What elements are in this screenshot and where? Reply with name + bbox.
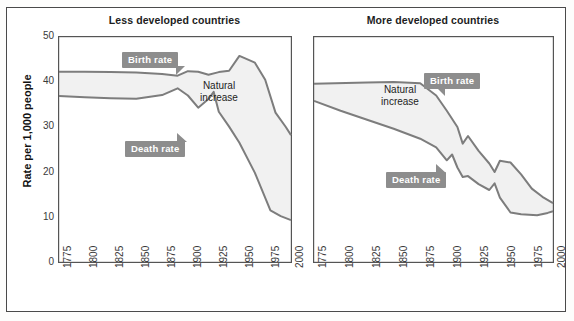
x-tick-right-1900: 1900 bbox=[452, 246, 463, 268]
natural-increase-area-left bbox=[59, 56, 291, 220]
x-tick-right-1800: 1800 bbox=[344, 246, 355, 268]
x-tick-left-1850: 1850 bbox=[140, 246, 151, 268]
callout-pointer-icon bbox=[176, 66, 185, 75]
annotation-line-1: Natural bbox=[186, 80, 252, 92]
x-tick-left-1775: 1775 bbox=[62, 246, 73, 268]
death-rate-callout-right: Death rate bbox=[386, 172, 446, 188]
panel-title-more-developed: More developed countries bbox=[313, 14, 553, 26]
x-tick-left-1875: 1875 bbox=[166, 246, 177, 268]
birth-rate-callout-label: Birth rate bbox=[128, 54, 172, 65]
annotation-line-2: increase bbox=[367, 96, 433, 108]
birth-rate-callout-left: Birth rate bbox=[122, 52, 178, 68]
x-tick-right-1925: 1925 bbox=[479, 246, 490, 268]
x-tick-left-1950: 1950 bbox=[244, 246, 255, 268]
x-tick-left-1800: 1800 bbox=[88, 246, 99, 268]
x-tick-left-1925: 1925 bbox=[218, 246, 229, 268]
natural-increase-annotation-right: Natural increase bbox=[367, 84, 433, 108]
natural-increase-annotation-left: Natural increase bbox=[186, 80, 252, 104]
demographic-transition-figure: Rate per 1,000 people Less developed cou… bbox=[0, 0, 574, 321]
callout-pointer-icon bbox=[177, 133, 187, 142]
x-tick-right-1775: 1775 bbox=[317, 246, 328, 268]
y-tick-20: 20 bbox=[28, 166, 54, 177]
death-rate-callout-left: Death rate bbox=[125, 141, 185, 157]
x-tick-right-1975: 1975 bbox=[533, 246, 544, 268]
death-rate-callout-label: Death rate bbox=[392, 174, 440, 185]
callout-pointer-icon bbox=[436, 164, 446, 173]
callout-pointer-icon bbox=[436, 87, 445, 96]
annotation-line-2: increase bbox=[186, 92, 252, 104]
x-tick-right-1875: 1875 bbox=[425, 246, 436, 268]
death-rate-callout-label: Death rate bbox=[131, 143, 179, 154]
y-axis-label: Rate per 1,000 people bbox=[21, 31, 33, 231]
y-tick-40: 40 bbox=[28, 75, 54, 86]
natural-increase-area-right bbox=[314, 82, 553, 215]
x-tick-left-1900: 1900 bbox=[192, 246, 203, 268]
x-tick-right-2000: 2000 bbox=[556, 246, 567, 268]
x-tick-right-1950: 1950 bbox=[506, 246, 517, 268]
y-tick-10: 10 bbox=[28, 211, 54, 222]
birth-rate-callout-label: Birth rate bbox=[430, 75, 474, 86]
plot-area-more-developed bbox=[313, 36, 554, 263]
x-tick-right-1850: 1850 bbox=[398, 246, 409, 268]
x-tick-right-1825: 1825 bbox=[371, 246, 382, 268]
y-tick-50: 50 bbox=[28, 30, 54, 41]
x-tick-left-1825: 1825 bbox=[114, 246, 125, 268]
plot-frame-right bbox=[314, 37, 554, 263]
annotation-line-1: Natural bbox=[367, 84, 433, 96]
y-tick-0: 0 bbox=[28, 256, 54, 267]
y-tick-30: 30 bbox=[28, 120, 54, 131]
panel-title-less-developed: Less developed countries bbox=[58, 14, 291, 26]
x-tick-left-1975: 1975 bbox=[270, 246, 281, 268]
x-tick-left-2000: 2000 bbox=[294, 246, 305, 268]
